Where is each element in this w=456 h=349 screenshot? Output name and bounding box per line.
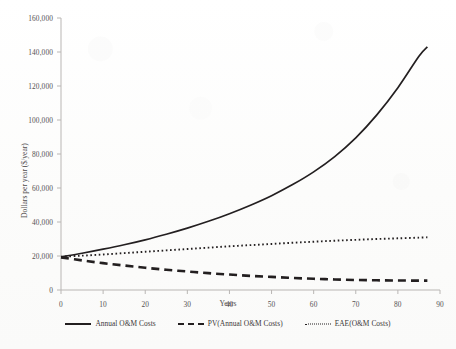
y-tick-label: 100,000	[0, 116, 53, 125]
legend-entry[interactable]: PV(Annual O&M Costs)	[178, 319, 283, 328]
y-axis-title: Dollars per year ($/year)	[20, 143, 29, 218]
x-axis-tick-marks	[61, 290, 440, 294]
legend-solid-line-icon	[65, 320, 91, 328]
legend-dashed-line-icon	[178, 320, 204, 328]
plot-canvas	[0, 0, 456, 349]
chart-legend: Annual O&M CostsPV(Annual O&M Costs)EAE(…	[0, 319, 456, 328]
y-tick-label: 120,000	[0, 82, 53, 91]
legend-dotted-line-icon	[305, 320, 331, 328]
y-tick-label: 0	[0, 286, 53, 295]
legend-label: Annual O&M Costs	[95, 319, 155, 328]
legend-label: PV(Annual O&M Costs)	[208, 319, 283, 328]
chart-figure: 020,00040,00060,00080,000100,000120,0001…	[0, 0, 456, 349]
y-tick-label: 140,000	[0, 48, 53, 57]
x-axis-title: Years	[0, 299, 456, 308]
legend-label: EAE(O&M Costs)	[335, 319, 391, 328]
series-line-solid	[61, 47, 427, 257]
y-tick-label: 20,000	[0, 252, 53, 261]
y-axis-tick-marks	[57, 18, 61, 290]
y-tick-label: 160,000	[0, 14, 53, 23]
legend-entry[interactable]: EAE(O&M Costs)	[305, 319, 391, 328]
y-tick-label: 40,000	[0, 218, 53, 227]
series-line-dashed	[61, 257, 427, 280]
legend-entry[interactable]: Annual O&M Costs	[65, 319, 155, 328]
data-series-layer	[61, 47, 427, 281]
